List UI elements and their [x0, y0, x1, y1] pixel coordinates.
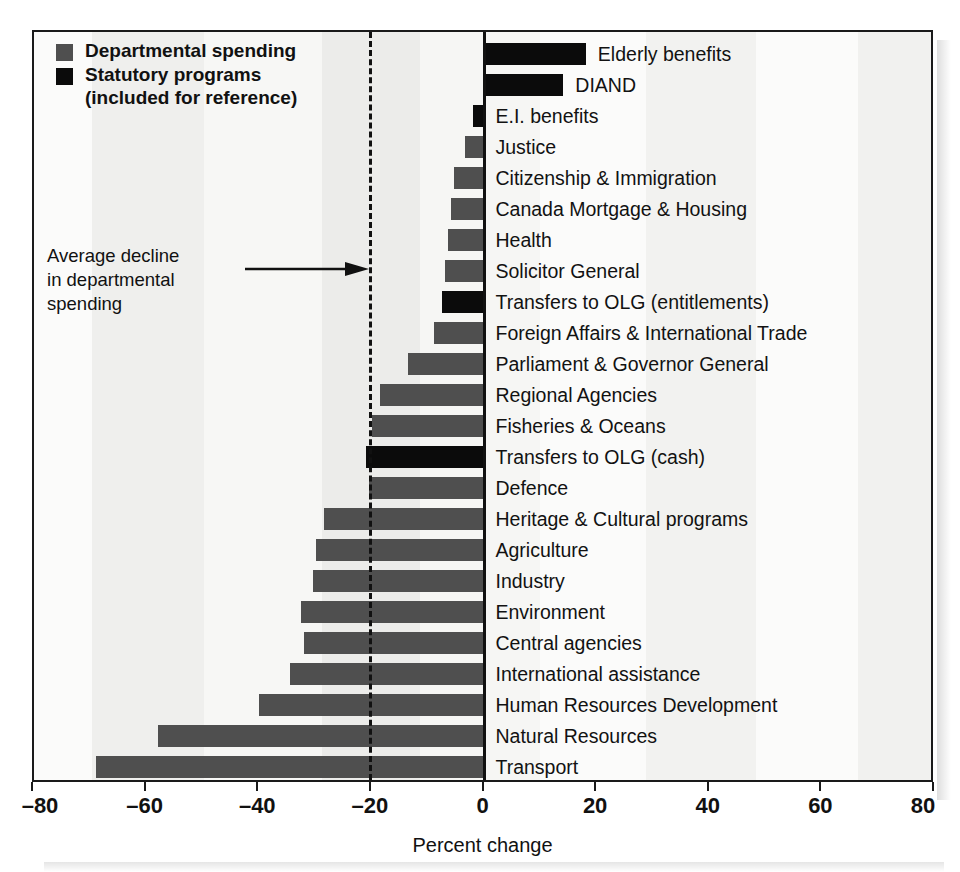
bar: [434, 322, 485, 344]
bar: [304, 632, 484, 654]
legend-item-statutory: Statutory programs (included for referen…: [56, 64, 297, 109]
x-tick-mark: [819, 782, 821, 791]
bar-label: Parliament & Governor General: [496, 353, 769, 375]
x-tick-label: 0: [476, 793, 488, 819]
bar: [301, 601, 484, 623]
bar-label: Defence: [496, 477, 569, 499]
bar-label: Canada Mortgage & Housing: [496, 198, 748, 220]
bar: [445, 260, 484, 282]
bar: [96, 756, 485, 778]
bar-label: Heritage & Cultural programs: [496, 508, 749, 530]
x-tick-label: 80: [911, 793, 935, 819]
bar: [442, 291, 484, 313]
annotation-text: Average decline in departmental spending: [47, 244, 257, 316]
x-tick-label: –60: [126, 793, 163, 819]
bar-label: Environment: [496, 601, 605, 623]
x-tick-mark: [932, 782, 934, 791]
x-axis-title: Percent change: [32, 834, 933, 857]
legend-label: Departmental spending: [85, 40, 296, 62]
x-tick-label: 20: [583, 793, 607, 819]
scan-band: [34, 32, 92, 780]
bar: [451, 198, 485, 220]
scan-band: [756, 32, 858, 780]
x-tick-label: –80: [22, 793, 59, 819]
legend-swatch-icon: [56, 68, 73, 85]
x-tick-mark: [144, 782, 146, 791]
bar-label: Health: [496, 229, 552, 251]
x-tick-mark: [482, 782, 484, 791]
bar-label: Natural Resources: [496, 725, 657, 747]
x-tick-mark: [31, 782, 33, 791]
bar-label: E.I. benefits: [496, 105, 599, 127]
bar-label: Transport: [496, 756, 579, 778]
page-shadow: [937, 40, 951, 800]
x-axis: –80–60–40–20020406080 Percent change: [32, 782, 933, 872]
plot-inner: Elderly benefitsDIANDE.I. benefitsJustic…: [34, 32, 931, 780]
legend-label: Statutory programs (included for referen…: [85, 64, 297, 109]
x-tick-label: 40: [696, 793, 720, 819]
bar-label: Regional Agencies: [496, 384, 658, 406]
bar-label: Citizenship & Immigration: [496, 167, 717, 189]
bar-label: Elderly benefits: [598, 43, 731, 65]
bar: [485, 43, 586, 65]
bar: [158, 725, 485, 747]
x-tick-mark: [256, 782, 258, 791]
bar-label: International assistance: [496, 663, 701, 685]
x-tick-label: 60: [808, 793, 832, 819]
x-tick-label: –40: [239, 793, 276, 819]
bar-label: Solicitor General: [496, 260, 640, 282]
chart-figure: Elderly benefitsDIANDE.I. benefitsJustic…: [0, 0, 960, 872]
bar: [366, 446, 484, 468]
bar-label: Transfers to OLG (entitlements): [496, 291, 769, 313]
bar-label: Industry: [496, 570, 565, 592]
x-tick-label: –20: [352, 793, 389, 819]
bar-label: Fisheries & Oceans: [496, 415, 666, 437]
scan-band: [858, 32, 933, 780]
bar: [485, 74, 564, 96]
x-tick-mark: [707, 782, 709, 791]
legend: Departmental spending Statutory programs…: [56, 40, 297, 111]
bar-label: Foreign Affairs & International Trade: [496, 322, 808, 344]
legend-item-departmental: Departmental spending: [56, 40, 297, 62]
legend-swatch-icon: [56, 44, 73, 61]
plot-area: Elderly benefitsDIANDE.I. benefitsJustic…: [32, 30, 933, 782]
x-tick-mark: [594, 782, 596, 791]
page-shadow: [44, 862, 944, 872]
x-tick-mark: [369, 782, 371, 791]
bar: [408, 353, 484, 375]
bar: [290, 663, 484, 685]
bar: [465, 136, 485, 158]
bar-label: Central agencies: [496, 632, 642, 654]
bar: [380, 384, 484, 406]
bar: [316, 539, 485, 561]
bar-label: Transfers to OLG (cash): [496, 446, 706, 468]
bar: [369, 477, 484, 499]
bar: [448, 229, 485, 251]
bar-label: Agriculture: [496, 539, 589, 561]
scan-band: [92, 32, 204, 780]
bar-label: Human Resources Development: [496, 694, 778, 716]
average-decline-line: [369, 32, 372, 780]
annotation-arrow-icon: [245, 262, 369, 276]
bar-label: DIAND: [575, 74, 636, 96]
bar-label: Justice: [496, 136, 557, 158]
bar: [313, 570, 485, 592]
zero-axis-line: [483, 32, 486, 780]
bar: [454, 167, 485, 189]
bar: [372, 415, 485, 437]
bar: [324, 508, 484, 530]
